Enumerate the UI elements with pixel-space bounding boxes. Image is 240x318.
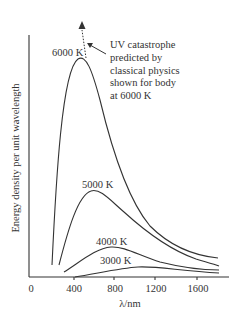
annotation-line-5: at 6000 K: [110, 90, 152, 101]
x-tick-label-1200: 1200: [146, 283, 167, 294]
y-axis-title: Energy density per unit wavelength: [10, 83, 21, 233]
x-ticks: 0 400 800 1200 1600: [28, 277, 208, 294]
x-tick-label-800: 800: [107, 283, 123, 294]
annotation-pointer-arrowhead-icon: [87, 43, 93, 48]
x-tick-label-0: 0: [28, 283, 33, 294]
annotation-line-2: predicted by: [110, 52, 163, 63]
blackbody-radiation-chart: 0 400 800 1200 1600 λ/nm Energy density …: [0, 0, 240, 318]
curve-label-3000k: 3000 K: [100, 255, 132, 266]
uv-catastrophe-annotation: UV catastrophe predicted by classical ph…: [110, 39, 180, 101]
x-tick-label-400: 400: [66, 283, 82, 294]
uv-catastrophe-arrowhead-icon: [79, 21, 86, 29]
x-tick-label-1600: 1600: [188, 283, 209, 294]
curve-label-4000k: 4000 K: [96, 236, 128, 247]
annotation-pointer-line: [90, 45, 106, 54]
curve-label-5000k: 5000 K: [82, 179, 114, 190]
annotation-line-1: UV catastrophe: [110, 39, 176, 50]
curve-label-6000k: 6000 K: [52, 47, 84, 58]
annotation-line-4: shown for body: [110, 77, 177, 88]
x-axis-title: λ/nm: [119, 298, 140, 309]
annotation-line-3: classical physics: [110, 65, 180, 76]
